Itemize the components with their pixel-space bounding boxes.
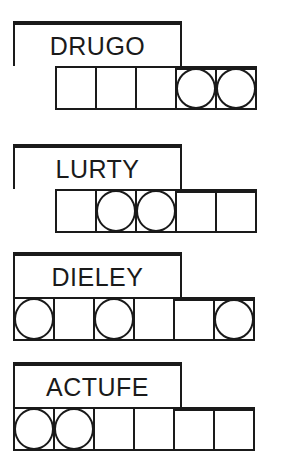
jumble-puzzle-1: DRUGO	[13, 21, 269, 111]
scrambled-word-drugo: DRUGO	[13, 21, 182, 66]
circled-letter-slot-4[interactable]	[175, 66, 217, 110]
circled-letter-slot-2[interactable]	[53, 407, 95, 451]
answer-slots-3	[13, 297, 255, 341]
scrambled-word-dieley: DIELEY	[13, 252, 182, 297]
letter-slot-4[interactable]	[175, 189, 217, 233]
answer-slots-4	[13, 407, 255, 451]
letter-slot-3[interactable]	[93, 407, 135, 451]
letter-slot-3[interactable]	[135, 66, 177, 110]
jumble-puzzle-2: LURTY	[13, 144, 269, 234]
answer-slots-1	[55, 66, 257, 110]
circled-letter-slot-1[interactable]	[13, 297, 55, 341]
letter-slot-2[interactable]	[53, 297, 95, 341]
jumble-puzzle-3: DIELEY	[13, 252, 269, 342]
circled-letter-slot-3[interactable]	[135, 189, 177, 233]
circled-letter-slot-1[interactable]	[13, 407, 55, 451]
scrambled-word-lurty: LURTY	[13, 144, 182, 189]
circled-letter-slot-6[interactable]	[213, 297, 255, 341]
letter-slot-5[interactable]	[173, 297, 215, 341]
circled-letter-slot-3[interactable]	[93, 297, 135, 341]
letter-slot-5[interactable]	[173, 407, 215, 451]
letter-slot-6[interactable]	[213, 407, 255, 451]
circled-letter-slot-5[interactable]	[215, 66, 257, 110]
letter-slot-4[interactable]	[133, 297, 175, 341]
jumble-puzzle-4: ACTUFE	[13, 362, 269, 452]
letter-slot-1[interactable]	[55, 189, 97, 233]
letter-slot-1[interactable]	[55, 66, 97, 110]
letter-slot-4[interactable]	[133, 407, 175, 451]
scrambled-word-actufe: ACTUFE	[13, 362, 182, 407]
circled-letter-slot-2[interactable]	[95, 189, 137, 233]
answer-slots-2	[55, 189, 257, 233]
letter-slot-5[interactable]	[215, 189, 257, 233]
letter-slot-2[interactable]	[95, 66, 137, 110]
